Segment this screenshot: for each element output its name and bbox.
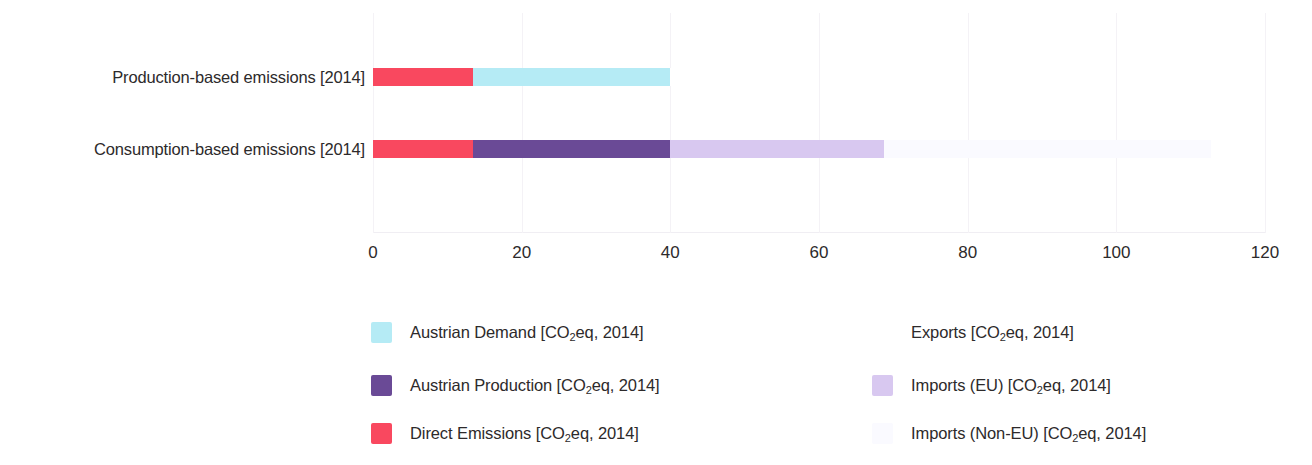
legend-swatch-icon bbox=[371, 423, 392, 444]
legend-label: Imports (EU) [CO2eq, 2014] bbox=[911, 376, 1111, 395]
bar-segment[interactable] bbox=[373, 68, 473, 86]
bar-segment[interactable] bbox=[373, 140, 473, 158]
legend-label: Direct Emissions [CO2eq, 2014] bbox=[410, 424, 639, 443]
legend-label: Imports (Non-EU) [CO2eq, 2014] bbox=[911, 424, 1146, 443]
legend-swatch-icon bbox=[872, 322, 893, 343]
bar-segment[interactable] bbox=[670, 68, 671, 86]
legend-swatch-icon bbox=[872, 423, 893, 444]
chart-legend: Austrian Demand [CO2eq, 2014]Austrian Pr… bbox=[0, 322, 1312, 452]
legend-item-direct-emissions[interactable]: Direct Emissions [CO2eq, 2014] bbox=[371, 423, 639, 444]
gridline-40 bbox=[670, 13, 671, 233]
gridline-60 bbox=[819, 13, 820, 233]
legend-item-austrian-production[interactable]: Austrian Production [CO2eq, 2014] bbox=[371, 375, 660, 396]
gridline-120 bbox=[1265, 13, 1266, 233]
gridline-0 bbox=[373, 13, 374, 233]
legend-item-imports-eu[interactable]: Imports (EU) [CO2eq, 2014] bbox=[872, 375, 1111, 396]
bar-segment[interactable] bbox=[884, 140, 1211, 158]
x-tick-label: 100 bbox=[1102, 243, 1130, 263]
legend-label: Austrian Demand [CO2eq, 2014] bbox=[410, 323, 643, 342]
y-axis-label-text: Consumption-based emissions [2014] bbox=[94, 140, 365, 158]
y-axis-label-text: Production-based emissions [2014] bbox=[112, 68, 365, 86]
x-tick-label: 0 bbox=[368, 243, 377, 263]
bar-segment[interactable] bbox=[473, 140, 670, 158]
bar-row[interactable] bbox=[373, 68, 1265, 86]
x-tick-label: 60 bbox=[810, 243, 829, 263]
x-tick-label: 20 bbox=[512, 243, 531, 263]
legend-swatch-icon bbox=[371, 375, 392, 396]
bar-segment[interactable] bbox=[473, 68, 670, 86]
gridline-100 bbox=[1116, 13, 1117, 233]
bar-row[interactable] bbox=[373, 140, 1265, 158]
bar-segment[interactable] bbox=[670, 140, 884, 158]
legend-label: Austrian Production [CO2eq, 2014] bbox=[410, 376, 660, 395]
x-tick-label: 80 bbox=[958, 243, 977, 263]
legend-item-imports-non-eu[interactable]: Imports (Non-EU) [CO2eq, 2014] bbox=[872, 423, 1146, 444]
legend-item-exports[interactable]: Exports [CO2eq, 2014] bbox=[872, 322, 1074, 343]
stacked-bar-chart: Production-based emissions [2014] Consum… bbox=[0, 0, 1312, 465]
legend-swatch-icon bbox=[371, 322, 392, 343]
x-tick-label: 120 bbox=[1251, 243, 1279, 263]
gridline-80 bbox=[968, 13, 969, 233]
x-tick-label: 40 bbox=[661, 243, 680, 263]
legend-label: Exports [CO2eq, 2014] bbox=[911, 323, 1074, 342]
y-axis-label-consumption-based: Consumption-based emissions [2014] bbox=[0, 140, 365, 159]
legend-item-austrian-demand[interactable]: Austrian Demand [CO2eq, 2014] bbox=[371, 322, 643, 343]
plot-area bbox=[373, 13, 1265, 233]
y-axis-label-production-based: Production-based emissions [2014] bbox=[0, 68, 365, 87]
legend-swatch-icon bbox=[872, 375, 893, 396]
gridline-20 bbox=[522, 13, 523, 233]
